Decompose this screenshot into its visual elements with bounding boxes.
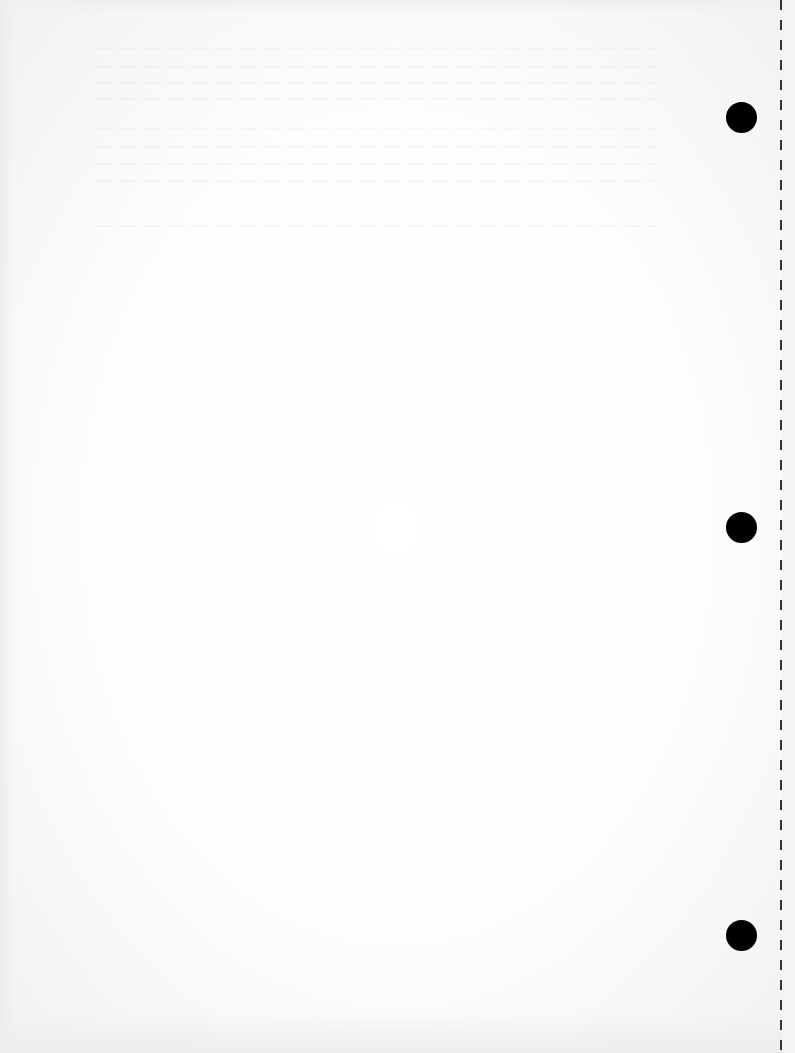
bleed-through-line [95,146,655,148]
bleed-through-line [95,82,655,84]
bleed-through-line [95,128,655,130]
bleed-through-line [95,180,655,182]
scan-shadow-top [0,0,795,14]
punch-hole-top [726,102,757,133]
scanned-page [0,0,795,1053]
scan-shadow-left [0,0,14,1053]
bleed-through-line [95,98,655,100]
bleed-through-line [95,48,655,50]
perforation-line [780,0,782,1053]
punch-hole-middle [726,512,757,543]
punch-hole-bottom [726,920,757,951]
bleed-through-line [95,225,655,227]
page-right-strip [782,0,795,1053]
bleed-through-line [95,66,655,68]
bleed-through-line [95,163,655,165]
scan-shadow-bottom [0,1013,795,1053]
